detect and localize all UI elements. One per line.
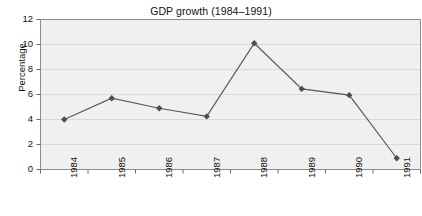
y-tick-label: 12 — [11, 14, 33, 24]
y-tick-label: 10 — [11, 39, 33, 49]
x-tick-label: 1988 — [259, 156, 269, 177]
y-tick-label: 0 — [11, 164, 33, 174]
x-tick-label: 1991 — [402, 156, 412, 177]
x-tick-label: 1985 — [117, 156, 127, 177]
y-tick-label: 2 — [11, 139, 33, 149]
x-tick-label: 1990 — [354, 156, 364, 177]
x-tick-label: 1987 — [212, 156, 222, 177]
x-tick-label: 1989 — [307, 156, 317, 177]
y-tick-label: 6 — [11, 89, 33, 99]
x-tick-label: 1986 — [164, 156, 174, 177]
gdp-growth-line-chart: GDP growth (1984–1991) Percentage 024681… — [0, 0, 422, 216]
y-tick-label: 8 — [11, 64, 33, 74]
y-tick-marks — [37, 20, 41, 170]
y-tick-label: 4 — [11, 114, 33, 124]
x-tick-label: 1984 — [69, 156, 79, 177]
plot-area — [0, 0, 422, 216]
